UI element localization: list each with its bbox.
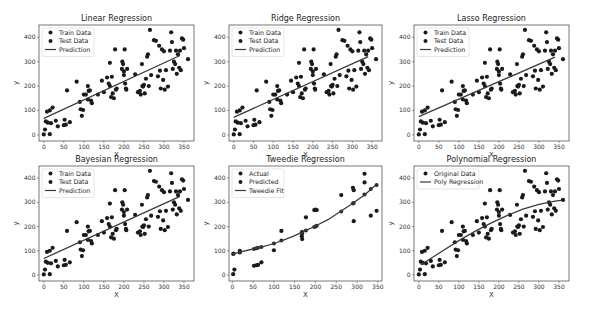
x-tick-label: 150	[98, 143, 110, 150]
x-tick-label: 250	[327, 143, 339, 150]
legend-label: Predicted	[249, 178, 279, 185]
x-tick-label: 100	[78, 283, 90, 290]
x-tick-label: 300	[351, 283, 363, 290]
subplot-lasso-regression: Lasso Regression050100150200250300350010…	[387, 14, 569, 159]
x-tick-label: 350	[366, 143, 378, 150]
x-tick-label: 100	[453, 143, 465, 150]
subplot-ridge-regression: Ridge Regression050100150200250300350010…	[202, 14, 382, 159]
y-tick-label: 400	[214, 33, 226, 40]
legend-label: Prediction	[434, 46, 465, 53]
legend-label: Train Data	[58, 170, 91, 177]
x-axis-label: X	[114, 291, 119, 299]
x-tick-label: 250	[513, 143, 525, 150]
y-tick-label: 300	[214, 198, 226, 205]
x-tick-label: 150	[473, 283, 485, 290]
x-tick-label: 200	[118, 143, 130, 150]
y-axis-label: y	[12, 221, 20, 225]
x-tick-label: 150	[473, 143, 485, 150]
x-tick-label: 350	[178, 143, 190, 150]
x-tick-label: 50	[60, 283, 68, 290]
y-tick-label: 400	[399, 174, 411, 181]
x-tick-label: 150	[289, 283, 301, 290]
x-tick-label: 150	[287, 143, 299, 150]
chart-title: Polynomial Regression	[447, 155, 537, 164]
y-axis-label: y	[387, 81, 395, 85]
x-tick-label: 300	[158, 143, 170, 150]
subplot-linear-regression: Linear Regression05010015020025030035001…	[12, 14, 194, 159]
x-tick-label: 200	[307, 143, 319, 150]
y-tick-label: 100	[214, 247, 226, 254]
y-tick-label: 200	[399, 82, 411, 89]
legend-label: Test Data	[248, 37, 279, 44]
x-tick-label: 100	[268, 283, 280, 290]
y-tick-label: 0	[222, 131, 226, 138]
chart-title: Linear Regression	[81, 14, 152, 23]
y-tick-label: 300	[24, 198, 36, 205]
y-tick-label: 300	[24, 58, 36, 65]
x-tick-label: 0	[417, 283, 421, 290]
x-tick-label: 350	[553, 283, 565, 290]
subplot-polynomial-regression: Polynomial Regression0501001502002503003…	[387, 155, 569, 299]
x-tick-label: 100	[453, 283, 465, 290]
y-tick-label: 400	[399, 33, 411, 40]
chart-title: Tweedie Regression	[265, 155, 344, 164]
y-tick-label: 0	[32, 271, 36, 278]
y-tick-label: 400	[24, 174, 36, 181]
legend-label: Train Data	[433, 29, 466, 36]
x-tick-label: 150	[98, 283, 110, 290]
x-tick-label: 350	[553, 143, 565, 150]
x-axis-label: X	[489, 291, 494, 299]
chart-title: Lasso Regression	[457, 14, 526, 23]
legend-label: Poly Regression	[434, 178, 483, 186]
y-tick-label: 100	[399, 106, 411, 113]
y-tick-label: 300	[214, 58, 226, 65]
y-tick-label: 100	[24, 247, 36, 254]
legend-label: Actual	[249, 170, 269, 177]
x-tick-label: 300	[533, 283, 545, 290]
legend-label: Prediction	[59, 187, 90, 194]
y-tick-label: 200	[399, 223, 411, 230]
legend-label: Test Data	[58, 37, 89, 44]
x-tick-label: 0	[42, 283, 46, 290]
x-tick-label: 0	[42, 143, 46, 150]
legend-label: Original Data	[434, 170, 476, 178]
x-tick-label: 250	[138, 283, 150, 290]
x-tick-label: 200	[493, 283, 505, 290]
x-tick-label: 100	[268, 143, 280, 150]
x-tick-label: 350	[178, 283, 190, 290]
x-tick-label: 0	[232, 143, 236, 150]
legend: Train DataTest DataPrediction	[417, 28, 469, 57]
x-tick-label: 0	[417, 143, 421, 150]
y-tick-label: 200	[214, 223, 226, 230]
legend-label: Train Data	[58, 29, 91, 36]
x-tick-label: 50	[435, 143, 443, 150]
x-tick-label: 350	[372, 283, 384, 290]
y-tick-label: 300	[399, 58, 411, 65]
legend-label: Tweedie Fit	[248, 187, 284, 194]
x-tick-label: 300	[533, 143, 545, 150]
chart-title: Ridge Regression	[271, 14, 340, 23]
legend-label: Test Data	[58, 178, 89, 185]
legend: ActualPredictedTweedie Fit	[232, 169, 284, 198]
x-tick-label: 200	[493, 143, 505, 150]
subplot-bayesian-regression: Bayesian Regression050100150200250300350…	[12, 155, 194, 299]
figure: Linear Regression05010015020025030035001…	[0, 0, 589, 316]
y-tick-label: 100	[214, 106, 226, 113]
x-tick-label: 250	[513, 283, 525, 290]
y-tick-label: 400	[214, 174, 226, 181]
legend-label: Test Data	[433, 37, 464, 44]
y-axis-label: y	[12, 81, 20, 85]
legend: Original DataPoly Regression	[417, 169, 483, 189]
y-axis-label: y	[202, 81, 210, 85]
x-tick-label: 200	[118, 283, 130, 290]
y-tick-label: 200	[24, 223, 36, 230]
x-tick-label: 50	[250, 143, 258, 150]
subplot-tweedie-regression: Tweedie Regression0501001502002503003500…	[202, 155, 384, 299]
y-tick-label: 100	[24, 106, 36, 113]
x-tick-label: 50	[60, 143, 68, 150]
legend-label: Prediction	[59, 46, 90, 53]
x-tick-label: 250	[331, 283, 343, 290]
y-tick-label: 100	[399, 247, 411, 254]
x-tick-label: 100	[78, 143, 90, 150]
y-tick-label: 0	[32, 131, 36, 138]
